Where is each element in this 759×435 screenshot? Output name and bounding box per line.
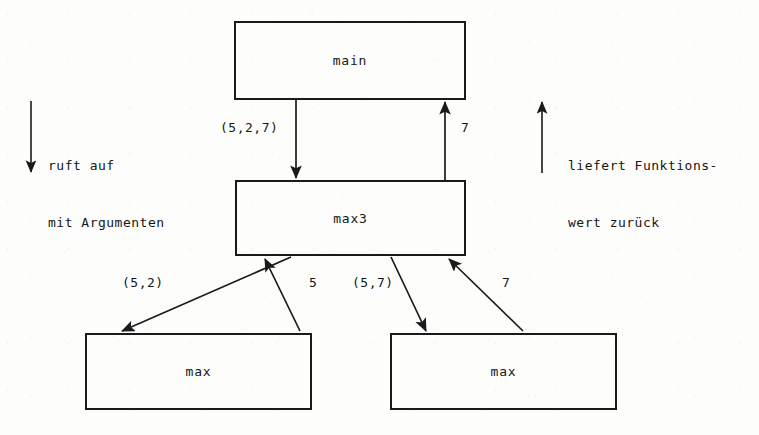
edge-max3-to-max-right bbox=[391, 257, 426, 331]
edge-label-max-left-to-max3: 5 bbox=[309, 275, 317, 290]
annotation-return: liefert Funktions- wert zurück bbox=[568, 118, 718, 270]
annotation-call-line1: ruft auf bbox=[48, 156, 165, 175]
node-max-left-label: max bbox=[186, 364, 212, 379]
edge-max-right-to-max3 bbox=[449, 259, 523, 331]
annotation-call: ruft auf mit Argumenten bbox=[48, 118, 165, 270]
edge-label-max3-to-max-right: (5,7) bbox=[352, 275, 394, 290]
edge-max-left-to-max3 bbox=[265, 259, 300, 331]
edge-label-max-right-to-max3: 7 bbox=[502, 275, 510, 290]
edge-label-max3-to-main: 7 bbox=[461, 120, 469, 135]
edge-label-max3-to-max-left: (5,2) bbox=[122, 275, 164, 290]
edge-label-main-to-max3: (5,2,7) bbox=[220, 120, 278, 135]
annotation-call-line2: mit Argumenten bbox=[48, 213, 165, 232]
node-main[interactable]: main bbox=[234, 21, 466, 100]
node-max3[interactable]: max3 bbox=[235, 180, 466, 256]
annotation-return-line2: wert zurück bbox=[568, 213, 718, 232]
node-max-right[interactable]: max bbox=[390, 333, 617, 410]
annotation-return-line1: liefert Funktions- bbox=[568, 156, 718, 175]
node-max-left[interactable]: max bbox=[85, 333, 312, 410]
diagram-canvas: main max3 max max (5,2,7) 7 (5,2) 5 (5,7… bbox=[0, 0, 759, 435]
node-max3-label: max3 bbox=[333, 211, 368, 226]
node-max-right-label: max bbox=[491, 364, 517, 379]
node-main-label: main bbox=[333, 53, 368, 68]
